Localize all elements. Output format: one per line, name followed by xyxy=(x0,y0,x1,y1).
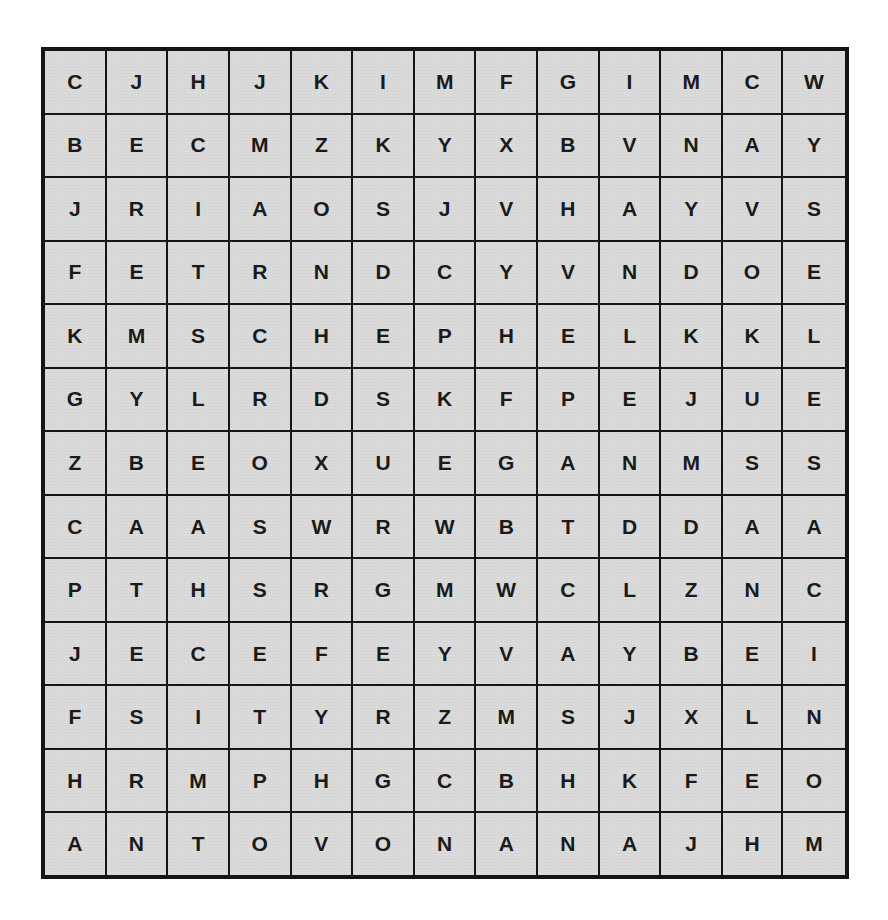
letter-cell-r6-c8[interactable]: F xyxy=(476,369,536,431)
letter-cell-r6-c11[interactable]: J xyxy=(661,369,721,431)
letter-cell-r12-c5[interactable]: H xyxy=(292,750,352,812)
letter-cell-r1-c12[interactable]: C xyxy=(723,51,781,113)
letter-cell-r8-c8[interactable]: B xyxy=(476,496,536,558)
letter-cell-r11-c11[interactable]: X xyxy=(661,686,721,748)
letter-cell-r3-c3[interactable]: I xyxy=(168,178,228,240)
letter-cell-r8-c13[interactable]: A xyxy=(783,496,845,558)
letter-cell-r8-c1[interactable]: C xyxy=(45,496,105,558)
letter-cell-r2-c2[interactable]: E xyxy=(107,115,167,177)
letter-cell-r12-c7[interactable]: C xyxy=(415,750,475,812)
letter-cell-r4-c4[interactable]: R xyxy=(230,242,290,304)
letter-cell-r3-c7[interactable]: J xyxy=(415,178,475,240)
letter-cell-r5-c8[interactable]: H xyxy=(476,305,536,367)
letter-cell-r13-c13[interactable]: M xyxy=(783,813,845,875)
letter-cell-r12-c12[interactable]: E xyxy=(723,750,781,812)
letter-cell-r4-c2[interactable]: E xyxy=(107,242,167,304)
letter-cell-r11-c3[interactable]: I xyxy=(168,686,228,748)
letter-cell-r7-c13[interactable]: S xyxy=(783,432,845,494)
letter-cell-r11-c10[interactable]: J xyxy=(600,686,660,748)
letter-cell-r13-c9[interactable]: N xyxy=(538,813,598,875)
letter-cell-r4-c1[interactable]: F xyxy=(45,242,105,304)
letter-cell-r7-c2[interactable]: B xyxy=(107,432,167,494)
letter-cell-r2-c3[interactable]: C xyxy=(168,115,228,177)
letter-cell-r10-c7[interactable]: Y xyxy=(415,623,475,685)
letter-cell-r12-c8[interactable]: B xyxy=(476,750,536,812)
letter-cell-r5-c9[interactable]: E xyxy=(538,305,598,367)
letter-cell-r4-c10[interactable]: N xyxy=(600,242,660,304)
letter-cell-r8-c9[interactable]: T xyxy=(538,496,598,558)
letter-cell-r8-c2[interactable]: A xyxy=(107,496,167,558)
letter-cell-r1-c3[interactable]: H xyxy=(168,51,228,113)
letter-cell-r10-c12[interactable]: E xyxy=(723,623,781,685)
letter-cell-r9-c8[interactable]: W xyxy=(476,559,536,621)
letter-cell-r11-c4[interactable]: T xyxy=(230,686,290,748)
letter-cell-r1-c4[interactable]: J xyxy=(230,51,290,113)
letter-cell-r9-c1[interactable]: P xyxy=(45,559,105,621)
letter-cell-r6-c5[interactable]: D xyxy=(292,369,352,431)
letter-cell-r4-c11[interactable]: D xyxy=(661,242,721,304)
letter-cell-r9-c11[interactable]: Z xyxy=(661,559,721,621)
letter-cell-r2-c12[interactable]: A xyxy=(723,115,781,177)
letter-cell-r12-c4[interactable]: P xyxy=(230,750,290,812)
letter-cell-r7-c4[interactable]: O xyxy=(230,432,290,494)
letter-cell-r10-c11[interactable]: B xyxy=(661,623,721,685)
letter-cell-r5-c7[interactable]: P xyxy=(415,305,475,367)
letter-cell-r6-c6[interactable]: S xyxy=(353,369,413,431)
letter-cell-r6-c12[interactable]: U xyxy=(723,369,781,431)
letter-cell-r2-c10[interactable]: V xyxy=(600,115,660,177)
letter-cell-r9-c4[interactable]: S xyxy=(230,559,290,621)
letter-cell-r13-c1[interactable]: A xyxy=(45,813,105,875)
letter-cell-r8-c7[interactable]: W xyxy=(415,496,475,558)
letter-cell-r10-c6[interactable]: E xyxy=(353,623,413,685)
letter-cell-r2-c4[interactable]: M xyxy=(230,115,290,177)
letter-cell-r2-c8[interactable]: X xyxy=(476,115,536,177)
letter-cell-r9-c3[interactable]: H xyxy=(168,559,228,621)
letter-cell-r7-c5[interactable]: X xyxy=(292,432,352,494)
letter-cell-r5-c13[interactable]: L xyxy=(783,305,845,367)
letter-cell-r4-c9[interactable]: V xyxy=(538,242,598,304)
letter-cell-r3-c1[interactable]: J xyxy=(45,178,105,240)
letter-cell-r10-c10[interactable]: Y xyxy=(600,623,660,685)
letter-cell-r4-c8[interactable]: Y xyxy=(476,242,536,304)
letter-cell-r7-c8[interactable]: G xyxy=(476,432,536,494)
letter-cell-r10-c2[interactable]: E xyxy=(107,623,167,685)
letter-cell-r1-c10[interactable]: I xyxy=(600,51,660,113)
letter-cell-r7-c6[interactable]: U xyxy=(353,432,413,494)
letter-cell-r11-c5[interactable]: Y xyxy=(292,686,352,748)
letter-cell-r9-c7[interactable]: M xyxy=(415,559,475,621)
letter-cell-r9-c9[interactable]: C xyxy=(538,559,598,621)
letter-cell-r13-c3[interactable]: T xyxy=(168,813,228,875)
letter-cell-r11-c1[interactable]: F xyxy=(45,686,105,748)
letter-cell-r1-c6[interactable]: I xyxy=(353,51,413,113)
letter-cell-r8-c12[interactable]: A xyxy=(723,496,781,558)
letter-cell-r3-c12[interactable]: V xyxy=(723,178,781,240)
letter-cell-r2-c6[interactable]: K xyxy=(353,115,413,177)
letter-cell-r1-c5[interactable]: K xyxy=(292,51,352,113)
letter-cell-r4-c7[interactable]: C xyxy=(415,242,475,304)
letter-cell-r1-c1[interactable]: C xyxy=(45,51,105,113)
letter-cell-r8-c4[interactable]: S xyxy=(230,496,290,558)
letter-cell-r4-c3[interactable]: T xyxy=(168,242,228,304)
letter-cell-r13-c4[interactable]: O xyxy=(230,813,290,875)
letter-cell-r10-c1[interactable]: J xyxy=(45,623,105,685)
letter-cell-r12-c2[interactable]: R xyxy=(107,750,167,812)
letter-cell-r6-c9[interactable]: P xyxy=(538,369,598,431)
letter-cell-r2-c9[interactable]: B xyxy=(538,115,598,177)
letter-cell-r8-c3[interactable]: A xyxy=(168,496,228,558)
letter-cell-r3-c11[interactable]: Y xyxy=(661,178,721,240)
letter-cell-r10-c9[interactable]: A xyxy=(538,623,598,685)
letter-cell-r13-c10[interactable]: A xyxy=(600,813,660,875)
letter-cell-r9-c12[interactable]: N xyxy=(723,559,781,621)
letter-cell-r3-c2[interactable]: R xyxy=(107,178,167,240)
letter-cell-r5-c5[interactable]: H xyxy=(292,305,352,367)
letter-cell-r11-c12[interactable]: L xyxy=(723,686,781,748)
letter-cell-r13-c12[interactable]: H xyxy=(723,813,781,875)
letter-cell-r2-c7[interactable]: Y xyxy=(415,115,475,177)
letter-cell-r3-c9[interactable]: H xyxy=(538,178,598,240)
letter-cell-r12-c9[interactable]: H xyxy=(538,750,598,812)
letter-cell-r7-c7[interactable]: E xyxy=(415,432,475,494)
letter-cell-r5-c6[interactable]: E xyxy=(353,305,413,367)
letter-cell-r4-c6[interactable]: D xyxy=(353,242,413,304)
letter-cell-r13-c11[interactable]: J xyxy=(661,813,721,875)
letter-cell-r3-c13[interactable]: S xyxy=(783,178,845,240)
